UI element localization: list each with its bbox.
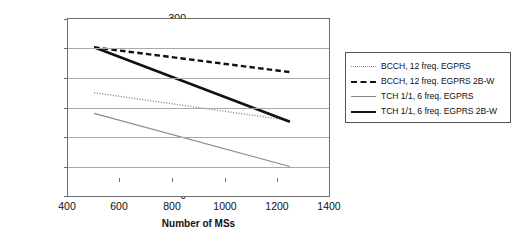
y-tick-mark-100 bbox=[64, 137, 68, 138]
series-line-tch-11-6-freq-egprs bbox=[94, 113, 290, 166]
series-line-tch-11-6-freq-egprs-2b-w bbox=[94, 47, 290, 121]
legend-item-bcch-12-freq-egprs-2b-w: BCCH, 12 freq. EGPRS 2B-W bbox=[351, 73, 506, 88]
y-tick-mark-50 bbox=[64, 167, 68, 168]
gridline-200 bbox=[68, 78, 329, 79]
legend-item-tch-11-6-freq-egprs-2b-w: TCH 1/1, 6 freq. EGPRS 2B-W bbox=[351, 103, 506, 118]
legend-swatch-dashed-icon bbox=[351, 75, 376, 87]
x-tick-label-1000: 1000 bbox=[203, 200, 247, 212]
x-tick-label-800: 800 bbox=[150, 200, 194, 212]
legend-label: BCCH, 12 freq. EGPRS 2B-W bbox=[381, 76, 494, 86]
x-tick-label-1200: 1200 bbox=[255, 200, 299, 212]
x-tick-label-1400: 1400 bbox=[307, 200, 351, 212]
legend-swatch-dotted-icon bbox=[351, 60, 376, 72]
gridline-50 bbox=[68, 167, 329, 168]
x-tick-mark-600 bbox=[119, 178, 120, 182]
plot-area bbox=[67, 18, 330, 197]
gridline-250 bbox=[68, 48, 329, 49]
y-tick-mark-300 bbox=[64, 19, 68, 20]
x-tick-label-400: 400 bbox=[45, 200, 89, 212]
gridline-150 bbox=[68, 108, 329, 109]
chart-figure: Mean session throughput [kbit/s] 300 250… bbox=[0, 0, 520, 240]
legend-label: TCH 1/1, 6 freq. EGPRS 2B-W bbox=[381, 106, 497, 116]
gridline-100 bbox=[68, 137, 329, 138]
x-tick-mark-800 bbox=[172, 178, 173, 182]
legend-label: TCH 1/1, 6 freq. EGPRS bbox=[381, 91, 474, 101]
x-tick-label-600: 600 bbox=[97, 200, 141, 212]
y-tick-mark-0 bbox=[64, 196, 68, 197]
x-tick-mark-1200 bbox=[277, 178, 278, 182]
legend-swatch-thin-solid-icon bbox=[351, 90, 376, 102]
y-tick-mark-150 bbox=[64, 108, 68, 109]
legend-item-bcch-12-freq-egprs: BCCH, 12 freq. EGPRS bbox=[351, 58, 506, 73]
x-tick-mark-400 bbox=[67, 178, 68, 182]
legend-swatch-thick-solid-icon bbox=[351, 105, 376, 117]
chart-legend: BCCH, 12 freq. EGPRS BCCH, 12 freq. EGPR… bbox=[345, 52, 511, 123]
x-tick-mark-1000 bbox=[225, 178, 226, 182]
y-tick-mark-200 bbox=[64, 78, 68, 79]
x-axis-title: Number of MSs bbox=[67, 218, 330, 229]
legend-label: BCCH, 12 freq. EGPRS bbox=[381, 61, 471, 71]
x-tick-mark-1400 bbox=[329, 178, 330, 182]
series-line-bcch-12-freq-egprs bbox=[94, 93, 290, 121]
y-tick-mark-250 bbox=[64, 48, 68, 49]
legend-item-tch-11-6-freq-egprs: TCH 1/1, 6 freq. EGPRS bbox=[351, 88, 506, 103]
